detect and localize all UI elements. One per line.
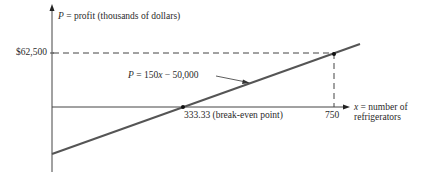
profit-chart: [0, 0, 424, 178]
breakeven-point: [181, 105, 185, 109]
equation-label: P = 150x − 50,000: [128, 70, 199, 80]
point-750: [332, 52, 336, 56]
x-tick-750-label: 750: [325, 110, 339, 120]
x-axis-arrow-icon: [343, 105, 350, 110]
profit-line: [52, 44, 360, 154]
y-axis-label: P = profit (thousands of dollars): [58, 11, 180, 21]
breakeven-label: 333.33 (break-even point): [184, 110, 283, 120]
x-axis-label: x = number ofrefrigerators: [354, 102, 408, 123]
equation-pointer: [216, 76, 246, 82]
y-axis-arrow-icon: [50, 4, 55, 11]
y-tick-label: $62,500: [16, 47, 47, 57]
